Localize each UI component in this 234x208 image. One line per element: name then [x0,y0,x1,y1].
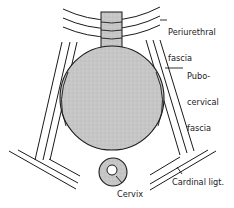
label-line: fascia [187,124,219,133]
label-line: Pubo- [187,72,219,81]
cervical-os [107,165,117,175]
label-line: cervical [187,98,219,107]
label-cervix: Cervix [117,190,143,199]
label-line: Periurethral [168,28,216,37]
anatomy-diagram: Periurethral fascia Pubo- cervical fasci… [0,0,234,208]
bladder [60,46,164,150]
cardinal-ligament-left [9,150,80,189]
label-pubocervical-fascia: Pubo- cervical fascia [187,55,219,150]
label-cardinal-ligament: Cardinal ligt. [172,178,224,187]
